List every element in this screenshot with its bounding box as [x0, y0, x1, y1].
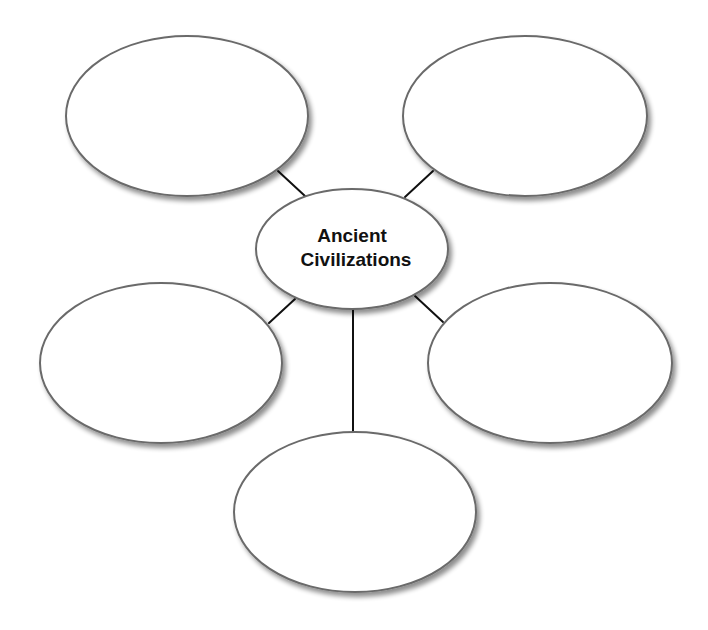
center-title-line2: Civilizations [301, 249, 412, 270]
branch-ellipse-middle-left[interactable] [40, 283, 282, 443]
branch-node-middle-left[interactable] [40, 283, 282, 443]
branch-ellipse-top-left[interactable] [66, 36, 308, 196]
branch-node-top-right[interactable] [403, 36, 647, 196]
center-title-line1: Ancient [317, 225, 387, 246]
concept-map: Ancient Civilizations [0, 0, 708, 630]
connector-top-right [405, 171, 433, 197]
branch-ellipse-top-right[interactable] [403, 36, 647, 196]
center-node[interactable]: Ancient Civilizations [256, 189, 448, 309]
branch-ellipse-bottom[interactable] [234, 432, 476, 592]
branch-node-middle-right[interactable] [428, 283, 672, 443]
connector-top-left [278, 171, 305, 196]
branch-node-top-left[interactable] [66, 36, 308, 196]
connector-middle-right [415, 296, 443, 322]
connector-middle-left [269, 299, 295, 323]
branch-ellipse-middle-right[interactable] [428, 283, 672, 443]
branch-node-bottom[interactable] [234, 432, 476, 592]
branch-nodes [40, 36, 672, 592]
